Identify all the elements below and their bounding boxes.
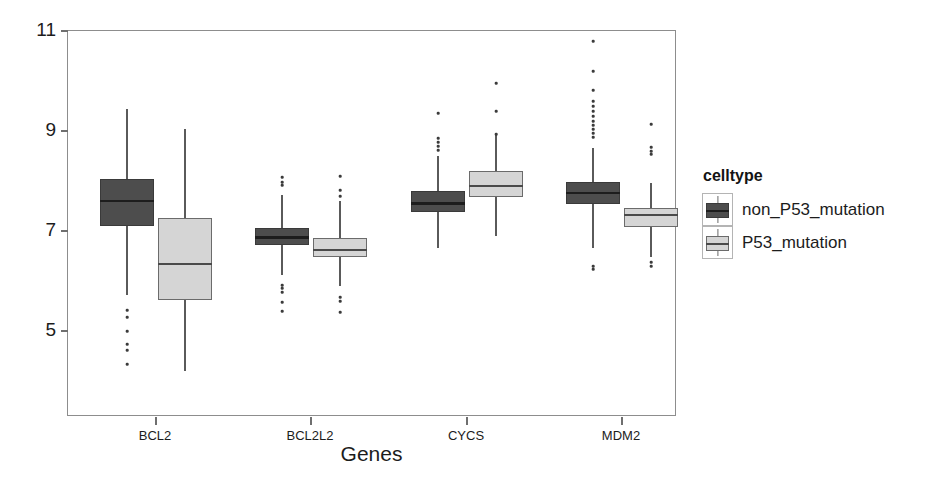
y-tick-mark — [61, 30, 68, 31]
box-iqr — [624, 208, 678, 227]
legend-median-line — [706, 210, 729, 212]
legend-swatch-boxplot-icon — [702, 193, 733, 226]
y-tick-mark — [61, 230, 68, 231]
x-tick-label-bcl2l2: BCL2L2 — [287, 429, 334, 442]
y-tick-label: 5 — [45, 320, 56, 339]
x-tick-mark — [466, 417, 467, 425]
whisker-upper — [650, 183, 651, 208]
y-tick-label: 7 — [45, 220, 56, 239]
legend-entry-list: non_P53_mutationP53_mutation — [702, 193, 924, 259]
whisker-lower — [650, 227, 651, 257]
x-tick-label-mdm2: MDM2 — [602, 429, 640, 442]
x-tick-label-bcl2: BCL2 — [139, 429, 172, 442]
legend-whisker-upper — [717, 229, 718, 236]
legend-median-line — [706, 243, 729, 245]
x-axis-title: Genes — [0, 443, 743, 464]
legend-swatch-boxplot-icon — [702, 226, 733, 259]
legend-entry[interactable]: non_P53_mutation — [702, 193, 924, 226]
legend-entry-label: P53_mutation — [742, 234, 847, 251]
y-tick-mark — [61, 130, 68, 131]
x-tick-mark — [621, 417, 622, 425]
plot-area — [67, 30, 676, 416]
outlier-point — [650, 123, 653, 126]
legend-entry-label: non_P53_mutation — [742, 201, 885, 218]
legend-entry[interactable]: P53_mutation — [702, 226, 924, 259]
x-tick-mark — [155, 417, 156, 425]
box-plot-mdm2-p53-mutation — [68, 31, 675, 415]
y-tick-label: 9 — [45, 120, 56, 139]
y-tick-mark — [61, 330, 68, 331]
y-tick-label: 11 — [36, 20, 56, 39]
median-line — [624, 214, 678, 216]
outlier-point — [650, 261, 653, 264]
outlier-point — [650, 153, 653, 156]
legend: celltype non_P53_mutationP53_mutation — [702, 168, 924, 259]
boxplot-figure: 11975 BCL2BCL2L2CYCSMDM2 Genes celltype … — [0, 0, 928, 486]
outlier-point — [650, 146, 653, 149]
x-tick-label-cycs: CYCS — [448, 429, 484, 442]
legend-whisker-upper — [717, 196, 718, 203]
legend-title: celltype — [702, 168, 924, 184]
outlier-point — [650, 265, 653, 268]
x-tick-mark — [310, 417, 311, 425]
